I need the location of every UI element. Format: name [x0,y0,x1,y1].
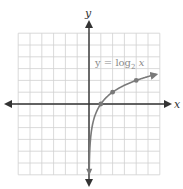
x-axis-label: x [174,98,181,111]
log-graph: x y y = log2 x [0,0,183,189]
data-point [98,102,103,107]
log-curve [89,74,156,172]
equation-var: x [135,57,144,68]
data-point [110,90,115,95]
y-axis-label: y [84,7,92,20]
data-point [134,78,139,83]
axes [6,22,170,185]
equation-main: y = log [94,57,132,68]
